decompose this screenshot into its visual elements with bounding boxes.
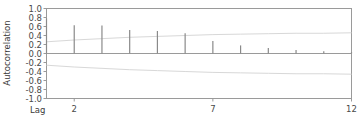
- y-tick-label: -1.0: [25, 94, 42, 104]
- lower-confidence-band: [47, 65, 352, 74]
- acf-bars: [47, 18, 352, 53]
- y-axis-title-group: Autocorrelation: [2, 20, 12, 85]
- y-axis-title: Autocorrelation: [2, 20, 12, 85]
- upper-confidence-band: [47, 33, 352, 42]
- x-tick-label: 2: [72, 104, 77, 114]
- x-axis-tick-labels: 2712: [72, 104, 357, 114]
- autocorrelation-chart: Autocorrelation 1.00.80.60.40.20.0-0.2-0…: [0, 0, 362, 124]
- x-axis-title: Lag: [30, 105, 45, 115]
- acf-chart-panel: Autocorrelation 1.00.80.60.40.20.0-0.2-0…: [0, 0, 362, 124]
- x-tick-label: 7: [210, 104, 215, 114]
- y-axis-tick-labels: 1.00.80.60.40.20.0-0.2-0.4-0.6-0.8-1.0: [25, 4, 42, 104]
- x-tick-label: 12: [346, 104, 357, 114]
